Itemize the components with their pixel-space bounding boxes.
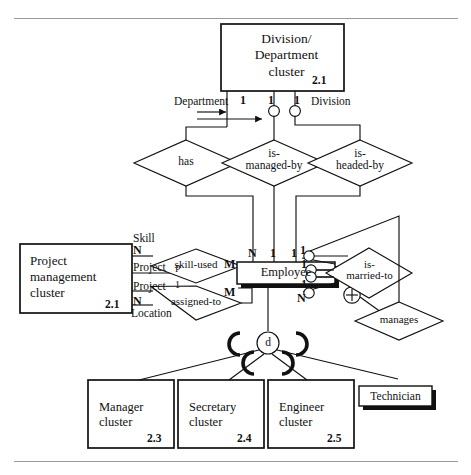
cardinality-skill-used-M: M — [224, 258, 235, 271]
cardinality-manages-N: N — [297, 292, 306, 305]
edge-spec-secretary — [229, 354, 264, 380]
cardinality-employee-right-1: 1 — [291, 247, 297, 260]
cardinality-married-1b: 1 — [301, 258, 307, 271]
label-is-managed-by: is- managed-by — [238, 148, 310, 171]
cardinality-top-left: 1 — [240, 94, 246, 107]
edge-assignedto-to-employee — [238, 288, 252, 303]
label-manages: manages — [369, 314, 429, 325]
edge-top-to-has — [186, 127, 227, 140]
subset-arc-1 — [229, 333, 240, 355]
label-skill-used: skill-used — [162, 259, 230, 270]
role-label-division: Division — [311, 95, 351, 107]
label-assigned-to: assigned-to — [160, 296, 232, 307]
cardinality-married-1a: 1 — [300, 244, 306, 257]
edge-spec-engineer — [272, 354, 307, 380]
role-label-location: Location — [131, 307, 172, 319]
subset-arc-2 — [296, 333, 307, 355]
cardinality-top-mid: 1 — [268, 94, 274, 107]
number-engineer-cluster: 2.5 — [327, 432, 341, 444]
participation-circle-headed — [290, 106, 301, 117]
label-is-headed-by: is- headed-by — [325, 148, 395, 171]
edge-spec-technician — [277, 350, 398, 379]
label-technician: Technician — [359, 390, 432, 402]
label-project-management-cluster: Project management cluster — [30, 253, 125, 301]
number-secretary-cluster: 2.4 — [237, 432, 251, 444]
label-division-department-cluster: Division/ Department cluster — [234, 31, 339, 80]
edge-spec-manager — [139, 350, 259, 380]
edge-top-to-headed — [295, 116, 360, 140]
number-manager-cluster: 2.3 — [147, 432, 161, 444]
number-division-department-cluster: 2.1 — [312, 74, 326, 86]
label-is-married-to: is- married-to — [337, 259, 402, 281]
label-employee: Employee — [237, 266, 335, 279]
participation-circle-managed — [269, 106, 280, 117]
label-disjoint-symbol: d — [258, 336, 278, 348]
cardinality-assigned-to-M: M — [224, 286, 235, 299]
cardinality-top-right: 1 — [294, 94, 300, 107]
role-label-project-p: Project — [133, 261, 166, 273]
label-manager-cluster: Manager cluster — [99, 400, 169, 431]
role-label-project-1: Project — [133, 280, 166, 292]
label-secretary-cluster: Secretary cluster — [189, 400, 261, 431]
cardinality-manages-1: 1 — [301, 278, 307, 291]
cardinality-employee-left-N: N — [248, 247, 257, 260]
role-label-project-1-sub: 1 — [175, 280, 180, 291]
cardinality-employee-mid-1: 1 — [270, 247, 276, 260]
number-project-management-cluster: 2.1 — [105, 298, 119, 310]
cardinality-skill-N: N — [133, 244, 142, 257]
role-label-department: Department — [174, 95, 228, 107]
label-engineer-cluster: Engineer cluster — [279, 400, 351, 431]
label-has: has — [166, 156, 206, 168]
cardinality-assigned-N: N — [133, 295, 142, 308]
er-diagram-canvas: Division/ Department cluster 2.1 Departm… — [0, 0, 471, 475]
